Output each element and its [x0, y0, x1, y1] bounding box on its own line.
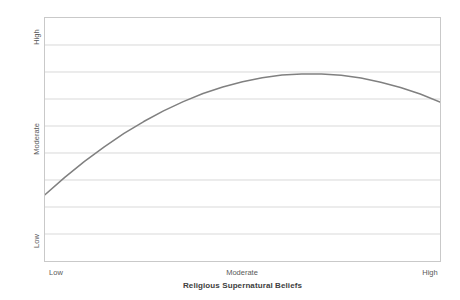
y-axis-tick-label-high: High: [31, 14, 43, 60]
x-axis-tick-label-moderate: Moderate: [220, 267, 264, 279]
chart-figure: Paranormal Beliefs High Moderate Low Low…: [0, 0, 460, 300]
x-axis-title: Religious Supernatural Beliefs: [44, 279, 441, 293]
plot-area: [44, 17, 441, 262]
y-axis-tick-label-moderate: Moderate: [31, 116, 43, 162]
data-series-curve: [45, 18, 440, 261]
series-line-paranormal-beliefs: [45, 74, 440, 195]
x-axis-tick-label-low: Low: [34, 267, 78, 279]
y-axis-tick-label-low: Low: [31, 218, 43, 264]
x-axis-tick-label-high: High: [408, 267, 452, 279]
